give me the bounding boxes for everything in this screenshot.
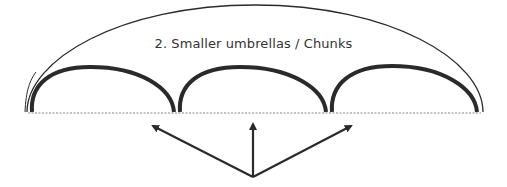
arrow-left-icon: [153, 126, 253, 177]
arrow-right-icon: [253, 126, 351, 177]
chunk-arc-3: [332, 66, 477, 112]
chunk-arc-2: [180, 67, 326, 112]
diagram-title: 2. Smaller umbrellas / Chunks: [0, 36, 507, 51]
diagram-canvas: [0, 0, 507, 187]
big-umbrella-arc: [27, 5, 483, 112]
chunk-arc-1: [32, 67, 174, 112]
